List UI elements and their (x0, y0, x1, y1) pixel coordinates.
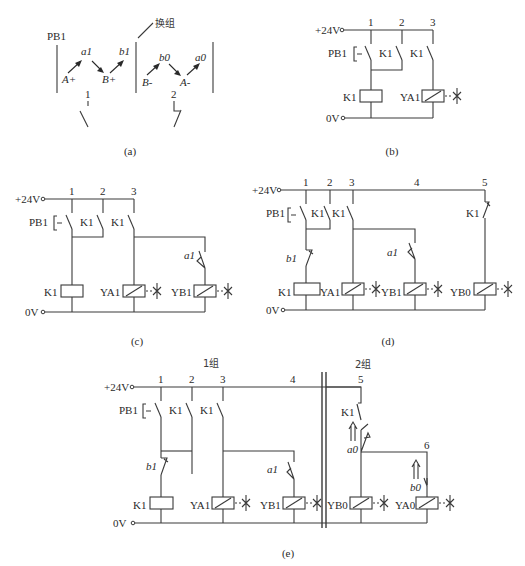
coil-k1-label: K1 (278, 286, 291, 298)
panel-c-circuit: +24V 1 2 3 PB1 K1 K1 a1 K1 YA1 YB1 (15, 185, 232, 348)
line-num-2: 2 (327, 176, 333, 188)
contact-k1-label: K1 (410, 47, 423, 59)
caption-d: (d) (382, 335, 395, 348)
valve-icon (427, 281, 442, 297)
coil-yb1-label: YB1 (260, 499, 281, 511)
limit-switch-a1 (197, 251, 205, 268)
relay-coil-k1 (360, 90, 382, 102)
relay-coil-k1 (61, 285, 83, 297)
contact-k1-hold (396, 46, 402, 60)
group1-label: 1组 (203, 357, 219, 369)
seq-a-minus: A- (179, 76, 191, 88)
contact-k1 (217, 403, 223, 417)
contact-k1 (128, 215, 134, 229)
circuit-diagram-figure: PB1 换组 A+ a1 B+ b1 B- b0 A- a0 1 2 (a) (0, 0, 525, 566)
valve-icon (373, 495, 388, 511)
line-num-6: 6 (424, 439, 430, 451)
supply-zero-0v: 0V (326, 112, 340, 124)
line-num-1: 1 (368, 16, 374, 28)
panel-e-circuit: 1组 2组 +24V 1 2 3 4 5 6 PB1 K1 K1 b1 a1 (104, 357, 454, 560)
contact-k1-nc (483, 202, 490, 218)
relay-coil-k1 (294, 283, 320, 295)
contact-pb1-label: PB1 (266, 207, 285, 219)
caption-e: (e) (282, 547, 295, 560)
pushbutton-actuator-icon (143, 404, 151, 418)
valve-icon (306, 495, 321, 511)
group-change-leader (138, 23, 153, 38)
coil-ya1-label: YA1 (320, 286, 340, 298)
group2-label: 2组 (355, 358, 371, 370)
supply-zero-0v: 0V (266, 304, 280, 316)
limit-switch-b1 (161, 458, 168, 475)
coil-ya0-label: YA0 (395, 499, 416, 511)
caption-a: (a) (124, 145, 137, 158)
coil-k1-label: K1 (44, 286, 57, 298)
contact-k1-hold-label: K1 (379, 47, 392, 59)
coil-yb1-label: YB1 (171, 286, 192, 298)
line-num-1: 1 (158, 373, 164, 385)
contact-pb1-label: PB1 (29, 216, 48, 228)
supply-plus-24v: +24V (315, 24, 340, 36)
seq-a1: a1 (81, 45, 92, 57)
limit-switch-a1-label: a1 (267, 463, 278, 475)
actuated-arrow-icon (412, 460, 420, 479)
caption-b: (b) (386, 145, 399, 158)
limit-switch-a0 (361, 424, 370, 452)
line-num-3: 3 (349, 176, 355, 188)
limit-switch-b0-label: b0 (410, 481, 422, 493)
seq-a-plus: A+ (61, 73, 76, 85)
contact-k1-label: K1 (111, 216, 124, 228)
coil-yb1-label: YB1 (381, 286, 402, 298)
seq-arrows-group2 (147, 63, 200, 76)
contact-k1-hold-label: K1 (80, 216, 93, 228)
pushbutton-actuator-icon (54, 216, 62, 230)
limit-switch-a1 (408, 243, 415, 259)
line-num-1: 1 (303, 176, 309, 188)
seq-b0: b0 (159, 51, 171, 63)
valve-icon (445, 88, 461, 104)
contact-k1-hold (97, 215, 103, 229)
start-button-label: PB1 (47, 30, 66, 42)
seq-b-plus: B+ (102, 73, 116, 85)
coil-ya1-label: YA1 (400, 91, 420, 103)
pushbutton-actuator-icon (288, 208, 296, 222)
panel-a-sequence: PB1 换组 A+ a1 B+ b1 B- b0 A- a0 1 2 (a) (47, 17, 213, 158)
contact-k1-hold (324, 206, 330, 220)
limit-switch-b1-label: b1 (146, 460, 157, 472)
supply-plus-24v: +24V (252, 184, 277, 196)
panel-b-circuit: +24V 1 2 3 PB1 K1 K1 K1 YA1 0V (b) (315, 16, 461, 158)
seq-a0: a0 (195, 51, 207, 63)
line-num-5: 5 (358, 373, 364, 385)
pushbutton-actuator-icon (354, 47, 362, 61)
contact-pb1 (300, 206, 306, 220)
coil-k1-label: K1 (133, 499, 146, 511)
line-num-4: 4 (290, 373, 296, 385)
switch-open-1 (80, 111, 88, 127)
limit-switch-b0 (424, 478, 427, 486)
line-num-3: 3 (430, 16, 436, 28)
contact-k1-nc-label: K1 (466, 207, 479, 219)
panel-d-circuit: +24V 1 2 3 4 5 PB1 K1 K1 b1 a1 K1 K1 (252, 176, 512, 348)
valve-icon (217, 283, 232, 299)
terminal-plus (340, 28, 344, 32)
contact-k1-hold (186, 403, 192, 417)
line-label-2: 2 (171, 88, 177, 100)
contact-pb1 (365, 46, 371, 60)
coil-ya1-label: YA1 (100, 286, 120, 298)
contact-k1-label: K1 (332, 207, 345, 219)
contact-k1-nc-label: K1 (341, 406, 354, 418)
supply-plus-24v: +24V (104, 381, 129, 393)
contact-pb1 (66, 215, 72, 229)
contact-k1-label: K1 (200, 404, 213, 416)
contact-k1 (347, 206, 353, 220)
relay-coil-k1 (150, 497, 173, 509)
valve-icon (235, 495, 250, 511)
coil-yb0-label: YB0 (450, 286, 471, 298)
contact-k1 (427, 46, 433, 60)
line-label-1: 1 (85, 88, 91, 100)
coil-ya1-label: YA1 (190, 499, 210, 511)
line-num-2: 2 (399, 16, 405, 28)
valve-icon (146, 283, 161, 299)
supply-plus-24v: +24V (15, 193, 40, 205)
limit-switch-a1-label: a1 (387, 246, 398, 258)
